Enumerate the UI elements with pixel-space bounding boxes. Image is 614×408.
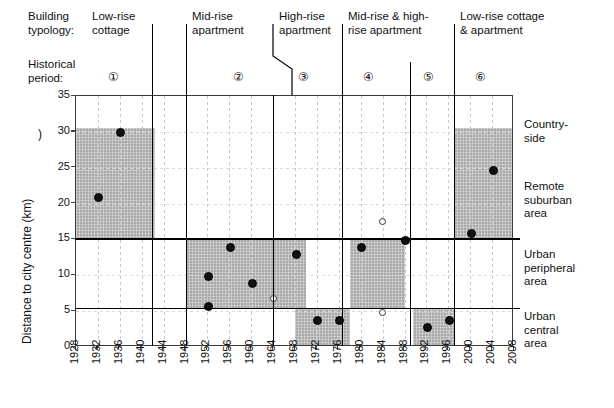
y-gridline: [76, 275, 512, 276]
data-point-filled: [226, 243, 235, 252]
y-tick-label: 30: [48, 124, 70, 136]
data-point-open: [379, 218, 386, 225]
y-axis-title: Distance to city centre (km): [20, 199, 34, 344]
zone-label-countryside: Country-side: [524, 118, 568, 145]
y-tick-mark: [71, 238, 75, 239]
period-number-6: ⑥: [471, 70, 489, 84]
period-divider-5: [410, 62, 411, 95]
x-tick-label: 1968: [287, 340, 299, 364]
y-gridline: [76, 311, 512, 312]
plot-separator: [454, 95, 455, 346]
kinked-divider: [250, 24, 310, 104]
period-number-2: ②: [229, 70, 247, 84]
data-point-filled: [292, 250, 301, 259]
data-point-open: [379, 309, 386, 316]
y-tick-label: 5: [48, 303, 70, 315]
x-tick-label: 1936: [112, 340, 124, 364]
header-divider: [454, 24, 455, 95]
x-tick-label: 2004: [484, 340, 496, 364]
data-point-filled: [423, 323, 432, 332]
x-tick-label: 1960: [243, 340, 255, 364]
data-point-filled: [401, 236, 410, 245]
typology-row-label: Buildingtypology:: [28, 10, 74, 37]
plot-separator: [410, 95, 411, 346]
y-tick-label: 25: [48, 160, 70, 172]
x-tick-label: 2000: [462, 340, 474, 364]
typology-header-low-rise-cottage-and-apartment: Low-rise cottage& apartment: [460, 10, 544, 37]
x-tick-label: 1928: [68, 340, 80, 364]
zone-label-urban-peripheral-area: Urbanperipheralarea: [524, 248, 575, 289]
y-tick-mark: [71, 166, 75, 167]
data-point-filled: [248, 279, 257, 288]
x-tick-label: 1940: [134, 340, 146, 364]
header-divider: [342, 24, 343, 95]
typology-header-mid-rise-apartment: Mid-riseapartment: [192, 10, 244, 37]
plot-separator: [152, 95, 153, 346]
period-band: [454, 128, 513, 239]
x-tick-label: 1952: [199, 340, 211, 364]
chart-figure: 0510152025303519281932193619401944194819…: [0, 0, 614, 408]
y-tick-mark: [71, 202, 75, 203]
period-number-4: ④: [359, 70, 377, 84]
x-tick-label: 1944: [156, 340, 168, 364]
y-tick-mark: [71, 310, 75, 311]
plot-separator: [273, 95, 274, 346]
data-point-filled: [467, 229, 476, 238]
data-point-filled: [204, 272, 213, 281]
y-gridline: [76, 168, 512, 169]
y-tick-label: 0: [48, 339, 70, 351]
plot-separator: [186, 95, 187, 346]
period-band: [76, 128, 155, 239]
period-row-label: Historicalperiod:: [28, 58, 75, 85]
x-tick-label: 2008: [506, 340, 518, 364]
x-tick-label: 1972: [309, 340, 321, 364]
data-point-filled: [204, 302, 213, 311]
y-tick-mark: [71, 95, 75, 96]
y-tick-label: 35: [48, 88, 70, 100]
zone-label-remote-suburban-area: Remotesuburbanarea: [524, 180, 572, 221]
y-gridline: [76, 204, 512, 205]
x-tick-label: 1996: [440, 340, 452, 364]
x-tick-label: 1988: [397, 340, 409, 364]
header-divider: [186, 24, 187, 95]
plot-separator: [342, 95, 343, 346]
x-tick-label: 1932: [90, 340, 102, 364]
x-tick-label: 1964: [265, 340, 277, 364]
data-point-filled: [489, 166, 498, 175]
zone-label-urban-central-area: Urbancentralarea: [524, 310, 559, 351]
stray-paren-mark: ): [38, 128, 42, 141]
x-tick-label: 1976: [331, 340, 343, 364]
typology-header-low-rise-cottage: Low-risecottage: [92, 10, 135, 37]
y-tick-label: 10: [48, 267, 70, 279]
x-tick-label: 1956: [221, 340, 233, 364]
y-tick-label: 20: [48, 196, 70, 208]
y-gridline: [76, 132, 512, 133]
period-number-1: ①: [104, 70, 122, 84]
period-number-5: ⑤: [419, 70, 437, 84]
data-point-filled: [445, 316, 454, 325]
x-tick-label: 1984: [375, 340, 387, 364]
y-tick-label: 15: [48, 231, 70, 243]
y-tick-mark: [71, 130, 75, 131]
y-tick-mark: [71, 274, 75, 275]
x-tick-label: 1992: [418, 340, 430, 364]
header-divider: [152, 24, 153, 95]
x-tick-label: 1980: [353, 340, 365, 364]
x-tick-label: 1948: [178, 340, 190, 364]
typology-header-mid-and-high-rise-apartment: Mid-rise & high-rise apartment: [348, 10, 429, 37]
